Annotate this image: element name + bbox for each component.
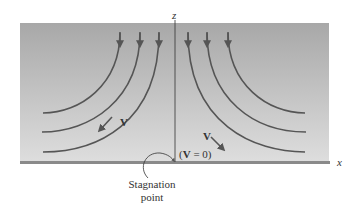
flow-region-panel (20, 23, 329, 163)
z-axis-label: z (172, 10, 176, 21)
equals-zero: = 0) (191, 148, 212, 160)
velocity-label-right: V (203, 131, 211, 142)
velocity-label-left: V (120, 117, 128, 128)
stagnation-flow-diagram: z x V V (V = 0) Stagnation point (0, 0, 363, 212)
flow-field-graphic (0, 0, 363, 212)
x-axis-label: x (337, 157, 342, 168)
stagnation-point-line2: point (128, 191, 176, 204)
stagnation-point-label: Stagnation point (128, 178, 176, 204)
stagnation-condition-label: (V = 0) (179, 149, 212, 160)
velocity-symbol: V (183, 148, 191, 160)
stagnation-point-line1: Stagnation (128, 178, 176, 191)
